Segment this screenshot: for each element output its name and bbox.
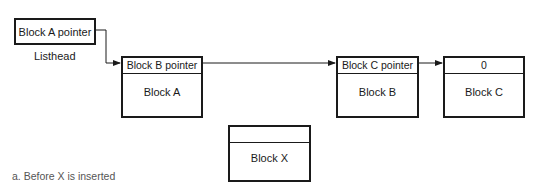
block-b: Block C pointer Block B bbox=[336, 56, 419, 118]
listhead-caption: Listhead bbox=[34, 50, 76, 62]
block-c: 0 Block C bbox=[443, 56, 525, 118]
block-a-pointer-field: Block B pointer bbox=[123, 58, 201, 74]
block-b-label: Block B bbox=[338, 86, 417, 98]
block-a: Block B pointer Block A bbox=[121, 56, 203, 118]
block-x-pointer-field bbox=[230, 127, 309, 143]
figure-caption: a. Before X is inserted bbox=[12, 170, 115, 182]
block-a-label: Block A bbox=[123, 86, 201, 98]
block-c-pointer-field: 0 bbox=[445, 58, 523, 74]
listhead-box: Block A pointer bbox=[14, 18, 96, 45]
arrow-listhead-to-block-a bbox=[95, 30, 120, 63]
listhead-pointer-label: Block A pointer bbox=[16, 20, 94, 43]
block-b-pointer-field: Block C pointer bbox=[338, 58, 417, 74]
block-c-label: Block C bbox=[445, 86, 523, 98]
block-x-label: Block X bbox=[230, 152, 309, 164]
block-x: Block X bbox=[228, 125, 311, 182]
